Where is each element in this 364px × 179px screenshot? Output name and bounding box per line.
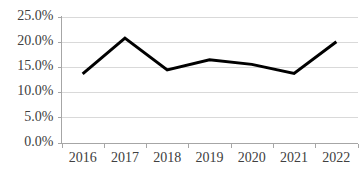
gridlines <box>62 18 358 118</box>
x-tick-label: 2016 <box>69 150 97 165</box>
x-tick-label: 2020 <box>238 150 266 165</box>
x-tick-label: 2021 <box>280 150 308 165</box>
chart-axes <box>62 16 358 144</box>
data-series <box>83 38 337 74</box>
x-tick-label: 2017 <box>111 150 139 165</box>
y-tick-label: 15.0% <box>17 58 54 73</box>
x-axis-tick-labels: 2016201720182019202020212022 <box>69 150 351 165</box>
y-tick-label: 25.0% <box>17 8 54 23</box>
x-tick-label: 2019 <box>196 150 224 165</box>
y-tick-label: 10.0% <box>17 83 54 98</box>
y-tick-label: 20.0% <box>17 33 54 48</box>
x-tick-label: 2018 <box>153 150 181 165</box>
chart-canvas: 0.0%5.0%10.0%15.0%20.0%25.0% 20162017201… <box>0 0 364 179</box>
axis-tick-marks <box>58 18 359 148</box>
series-line-0 <box>83 38 337 74</box>
line-chart: 0.0%5.0%10.0%15.0%20.0%25.0% 20162017201… <box>0 0 364 179</box>
y-tick-label: 0.0% <box>24 134 54 149</box>
y-tick-label: 5.0% <box>24 109 54 124</box>
y-axis-tick-labels: 0.0%5.0%10.0%15.0%20.0%25.0% <box>17 8 54 149</box>
x-tick-label: 2022 <box>322 150 350 165</box>
